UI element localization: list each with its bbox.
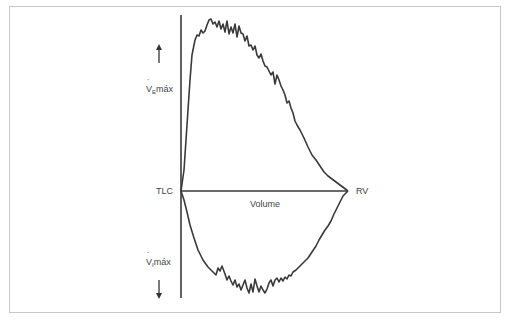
max-text: máx: [156, 84, 173, 94]
inspiratory-max-label: VImáx: [146, 257, 171, 267]
up-arrow-icon: [156, 44, 162, 50]
tlc-label: TLC: [156, 186, 173, 196]
expiratory-subscript: E: [152, 89, 156, 95]
rv-label: RV: [356, 186, 368, 196]
volume-label: Volume: [250, 199, 280, 209]
inspiratory-subscript: I: [152, 262, 154, 268]
flow-volume-plot: [0, 0, 511, 323]
expiratory-curve: [181, 19, 348, 191]
max-text: máx: [154, 257, 171, 267]
down-arrow-icon: [156, 293, 162, 299]
expiratory-max-label: VEmáx: [146, 84, 173, 94]
